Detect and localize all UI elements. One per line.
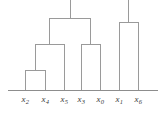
dendrogram-figure: x2 x4 x5 x3 x0 x1 x6 [0,0,165,115]
leaf-label-x5-sub: 5 [65,98,68,105]
merge-node-m3 [81,18,100,44]
leaf-label-x0: x0 [96,95,103,104]
merge-node-m4 [50,0,91,18]
merge-node-m1 [25,44,45,70]
leaf-label-x3-sub: 3 [82,98,85,105]
leaf-label-x3: x3 [77,95,84,104]
leaf-label-x1: x1 [115,95,122,104]
leaf-label-x2-sub: 2 [26,98,29,105]
leaf-stems [25,22,138,90]
leaf-label-x4-sub: 4 [46,98,49,105]
leaf-label-x0-sub: 0 [101,98,104,105]
merge-node-m5 [119,0,138,22]
leaf-label-x5: x5 [60,95,67,104]
leaf-label-x6: x6 [134,95,141,104]
leaf-label-x1-sub: 1 [120,98,123,105]
leaf-label-x2: x2 [21,95,28,104]
leaf-label-x6-sub: 6 [139,98,142,105]
leaf-label-x4: x4 [41,95,48,104]
merge-node-m2 [35,18,64,44]
